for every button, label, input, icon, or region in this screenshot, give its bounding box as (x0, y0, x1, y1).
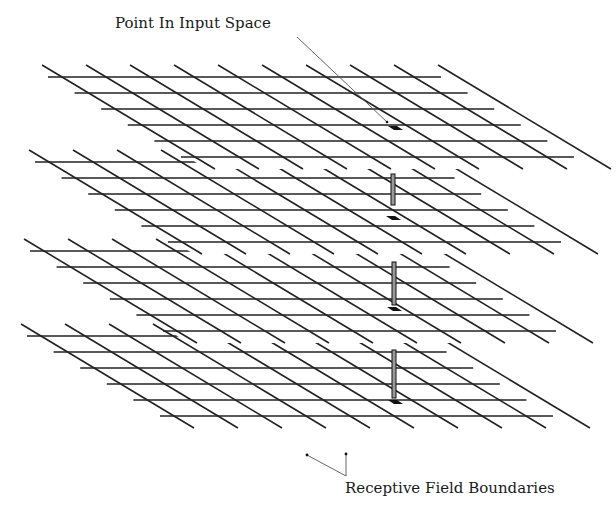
point-pointer-dot (386, 121, 389, 124)
boundary-dot-left (306, 454, 309, 457)
cmac-layers-diagram (0, 0, 616, 517)
receptive-field-boundaries-label: Receptive Field Boundaries (345, 479, 555, 497)
activation-bar-4 (392, 350, 396, 398)
boundary-dot-right (345, 453, 348, 456)
activation-bar-3 (392, 262, 396, 305)
activation-bar-2 (391, 174, 395, 205)
boundary-pointer-line (307, 454, 346, 476)
receptive-field-layers (13, 65, 611, 428)
point-in-input-space-label: Point In Input Space (115, 14, 271, 32)
